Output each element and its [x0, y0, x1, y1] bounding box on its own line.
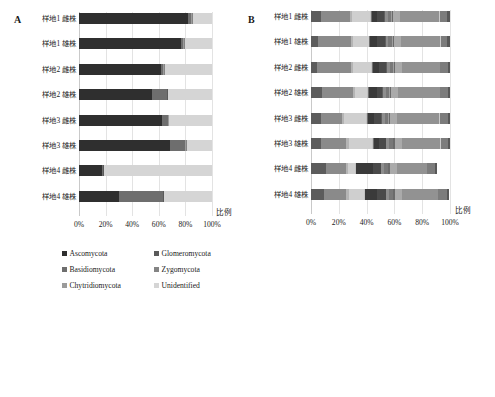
bar-segment: [322, 87, 353, 98]
bar-segment: [311, 189, 324, 200]
stacked-bar: [311, 11, 450, 22]
bar-segment: [79, 13, 188, 24]
legend-item: Unidentified: [154, 281, 242, 290]
x-axis-tick-label: 40%: [360, 217, 374, 229]
bar-row: [311, 163, 450, 174]
bar-segment: [321, 138, 346, 149]
x-axis-tick-label: 20%: [332, 217, 346, 229]
y-axis-label: 样地2 雄株: [274, 87, 308, 98]
bar-segment: [379, 62, 387, 73]
x-axis-tick-label: 0%: [74, 219, 84, 231]
bar-segment: [441, 138, 449, 149]
panel-b: B 样地1 雌株样地1 雄株样地2 雌株样地2 雄株样地3 雌株样地3 雄株样地…: [245, 0, 495, 250]
gridline: [212, 12, 213, 216]
panel-a-plot-area: [79, 12, 212, 216]
bar-segment: [311, 163, 326, 174]
panel-a-axis-title: 比例: [216, 206, 232, 217]
bar-row: [79, 13, 212, 24]
bar-segment: [447, 11, 450, 22]
bar-row: [311, 189, 450, 200]
bar-row: [79, 64, 212, 75]
bar-segment: [395, 138, 402, 149]
legend-item: Basidiomycota: [62, 265, 150, 274]
panel-a-bars: [79, 12, 212, 216]
bar-segment: [168, 89, 212, 100]
bar-segment: [402, 189, 438, 200]
bar-segment: [448, 113, 450, 124]
bar-segment: [79, 64, 161, 75]
bar-segment: [356, 163, 373, 174]
bar-segment: [169, 115, 212, 126]
stacked-bar: [311, 163, 450, 174]
bar-row: [79, 89, 212, 100]
bar-segment: [311, 113, 321, 124]
stacked-bar: [79, 191, 212, 202]
stacked-bar: [79, 115, 212, 126]
legend-swatch-icon: [154, 283, 159, 288]
legend-swatch-icon: [62, 283, 67, 288]
legend-label: Ascomycota: [70, 249, 108, 258]
stacked-bar: [79, 89, 212, 100]
bar-segment: [79, 38, 181, 49]
bar-row: [79, 38, 212, 49]
bar-segment: [402, 62, 440, 73]
y-axis-label: 样地3 雌株: [42, 115, 76, 126]
bar-segment: [435, 163, 437, 174]
legend-swatch-icon: [154, 267, 159, 272]
bar-segment: [321, 11, 350, 22]
legend-label: Zygomycota: [162, 265, 200, 274]
bar-segment: [400, 11, 439, 22]
y-axis-label: 样地2 雌株: [274, 62, 308, 73]
bar-segment: [447, 36, 450, 47]
panel-a-x-axis-labels: 0%20%40%60%80%100%: [79, 219, 212, 233]
bar-segment: [119, 191, 163, 202]
bar-segment: [79, 165, 102, 176]
bar-segment: [373, 163, 381, 174]
bar-segment: [393, 11, 400, 22]
bar-segment: [390, 113, 397, 124]
panel-b-bars: [311, 10, 450, 214]
bar-segment: [311, 87, 322, 98]
bar-segment: [374, 113, 382, 124]
bar-segment: [448, 87, 450, 98]
bar-segment: [397, 113, 439, 124]
bar-segment: [318, 36, 351, 47]
bar-segment: [349, 189, 364, 200]
stacked-bar: [79, 165, 212, 176]
bar-row: [79, 165, 212, 176]
bar-row: [79, 115, 212, 126]
x-axis-tick-label: 80%: [415, 217, 429, 229]
bar-segment: [394, 36, 401, 47]
bar-segment: [355, 87, 368, 98]
bar-segment: [311, 36, 318, 47]
stacked-bar: [79, 64, 212, 75]
y-axis-label: 样地2 雌株: [42, 64, 76, 75]
x-axis-tick-label: 20%: [99, 219, 113, 231]
y-axis-label: 样地3 雄株: [274, 138, 308, 149]
y-axis-label: 样地3 雌株: [274, 113, 308, 124]
bar-segment: [377, 36, 385, 47]
stacked-bar: [79, 13, 212, 24]
legend-swatch-icon: [62, 267, 67, 272]
bar-segment: [79, 115, 162, 126]
bar-segment: [104, 165, 212, 176]
legend-item: Zygomycota: [154, 265, 242, 274]
bar-segment: [185, 38, 212, 49]
x-axis-tick-label: 40%: [125, 219, 139, 231]
bar-segment: [187, 140, 212, 151]
x-axis-tick-label: 100%: [441, 217, 459, 229]
bar-segment: [365, 189, 376, 200]
stacked-bar: [311, 189, 450, 200]
y-axis-label: 样地4 雄株: [42, 191, 76, 202]
bar-segment: [440, 87, 448, 98]
bar-segment: [447, 189, 449, 200]
bar-segment: [311, 138, 321, 149]
bar-row: [79, 140, 212, 151]
y-axis-label: 样地1 雌株: [274, 11, 308, 22]
bar-segment: [79, 191, 119, 202]
bar-segment: [79, 140, 170, 151]
bar-segment: [427, 163, 435, 174]
bar-segment: [348, 163, 355, 174]
panel-b-axis-title: 比例: [455, 204, 471, 215]
bar-segment: [344, 113, 366, 124]
